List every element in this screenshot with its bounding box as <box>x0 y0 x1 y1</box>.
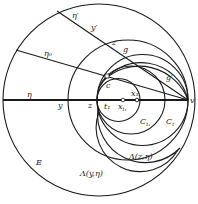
label-z: z <box>87 101 93 110</box>
point-c <box>105 74 109 78</box>
label-lambda-y-eta: Λ(y,η) <box>79 169 103 178</box>
eta0-ray <box>16 50 188 100</box>
label-t1: t₁ <box>104 102 110 111</box>
point-x1 <box>135 98 139 102</box>
label-eta0: η₀ <box>44 49 53 58</box>
label-c: c <box>106 81 111 90</box>
label-E: E <box>35 158 42 167</box>
label-eta-prime: η′ <box>72 11 79 20</box>
geometric-diagram: η′ y′ z′ g η₀ c g′ η y z t₁ xt₁ x₁ v Ct₁… <box>0 0 198 204</box>
label-x1: x₁ <box>131 89 139 98</box>
label-C-t: Ct <box>166 117 175 127</box>
label-z-prime: z′ <box>111 38 118 47</box>
label-y-prime: y′ <box>90 23 98 32</box>
diagram-canvas: η′ y′ z′ g η₀ c g′ η y z t₁ xt₁ x₁ v Ct₁… <box>0 0 198 204</box>
label-y: y <box>57 101 63 110</box>
label-x-t1: xt₁ <box>118 102 127 112</box>
label-lambda-z-eta: Λ(z,η) <box>128 152 153 161</box>
label-C-t1: Ct₁ <box>140 117 150 127</box>
label-g-prime: g′ <box>166 73 173 82</box>
label-v: v <box>190 96 195 105</box>
label-g: g <box>123 45 128 54</box>
label-eta: η <box>27 90 32 99</box>
